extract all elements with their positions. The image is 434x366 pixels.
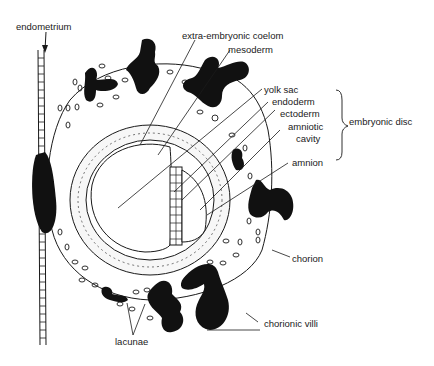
label-amnion: amnion (292, 157, 323, 168)
label-endoderm: endoderm (272, 96, 315, 107)
label-lacunae: lacunae (115, 336, 148, 347)
label-mesoderm: mesoderm (228, 44, 273, 55)
diagram-canvas (0, 0, 434, 366)
label-chorion: chorion (292, 253, 323, 264)
label-embryonic-disc: embryonic disc (349, 116, 412, 127)
label-chorionic-villi: chorionic villi (264, 318, 318, 329)
embryonic-disc-brace (336, 90, 348, 160)
label-extra-embryonic-coelom: extra-embryonic coelom (182, 30, 283, 41)
label-cavity: cavity (296, 133, 320, 144)
endometrium-arrow (42, 32, 48, 53)
label-amniotic: amniotic (288, 121, 323, 132)
yolk-sac-and-amnion (70, 125, 230, 275)
label-endometrium: endometrium (16, 21, 71, 32)
label-yolk-sac: yolk sac (264, 84, 298, 95)
label-ectoderm: ectoderm (280, 108, 320, 119)
